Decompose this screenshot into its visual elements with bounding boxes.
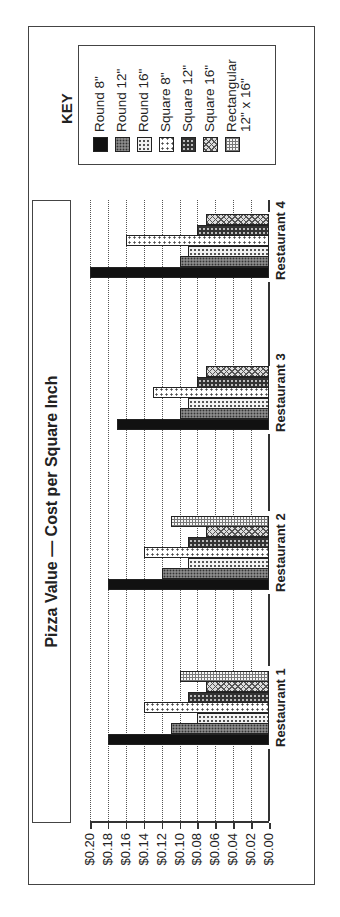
chart-title-text: Pizza Value — Cost per Square Inch <box>43 375 61 647</box>
category-label: Restaurant 2 <box>273 513 288 592</box>
legend-swatch-icon <box>225 137 240 152</box>
gridline <box>162 200 163 821</box>
legend-label: Round 8" <box>93 76 107 132</box>
baseline <box>268 749 270 821</box>
bar <box>188 558 269 569</box>
legend-label: Square 12" <box>181 65 195 132</box>
bar <box>180 257 270 268</box>
bar <box>126 236 269 247</box>
baseline <box>268 282 270 366</box>
legend-item: Round 8" <box>93 76 108 152</box>
legend-swatch-icon <box>159 137 174 152</box>
bar <box>144 703 269 714</box>
bar <box>188 692 269 703</box>
axis-tick <box>126 823 128 829</box>
gridline <box>108 200 109 821</box>
legend-swatch-icon <box>115 137 130 152</box>
bar <box>90 267 269 278</box>
axis-tick <box>108 823 110 829</box>
legend-swatch-icon <box>93 137 108 152</box>
y-tick-label: $0.06 <box>207 833 222 877</box>
axis-tick <box>197 823 199 829</box>
y-tick-label: $0.08 <box>189 833 204 877</box>
legend-swatch-icon <box>203 137 218 152</box>
rotated-chart: Pizza Value — Cost per Square Inch $0.00… <box>0 0 340 917</box>
bar <box>108 579 269 590</box>
legend-item: Square 16" <box>203 65 218 152</box>
axis-tick <box>144 823 146 829</box>
y-tick-label: $0.16 <box>118 833 133 877</box>
bar <box>180 671 270 682</box>
bar <box>180 409 270 420</box>
legend: Round 8"Round 12"Round 16"Square 8"Squar… <box>78 45 276 165</box>
legend-item: Square 8" <box>159 72 174 152</box>
bar <box>206 682 269 693</box>
axis-tick <box>269 823 271 829</box>
legend-label: Square 16" <box>203 65 217 132</box>
bar <box>206 527 269 538</box>
legend-label: Round 12" <box>115 69 129 132</box>
legend-title: KEY <box>58 93 75 124</box>
axis-tick <box>180 823 182 829</box>
gridline <box>126 200 127 821</box>
y-tick-label: $0.10 <box>172 833 187 877</box>
axis-tick <box>90 823 92 829</box>
bar <box>108 734 269 745</box>
legend-label: Round 16" <box>137 69 151 132</box>
y-tick-label: $0.18 <box>100 833 115 877</box>
bar <box>117 419 269 430</box>
category-label: Restaurant 1 <box>273 668 288 747</box>
legend-item: Round 16" <box>137 69 152 152</box>
y-tick-label: $0.14 <box>136 833 151 877</box>
legend-item: Round 12" <box>115 69 130 152</box>
axis-tick <box>251 823 253 829</box>
bar <box>153 388 269 399</box>
bar <box>188 246 269 257</box>
bar <box>197 377 269 388</box>
bar <box>171 516 269 527</box>
y-axis-line <box>90 822 269 824</box>
bar <box>162 569 269 580</box>
bar <box>197 225 269 236</box>
gridline <box>90 200 91 821</box>
category-label: Restaurant 3 <box>273 353 288 432</box>
axis-tick <box>233 823 235 829</box>
bar <box>171 724 269 735</box>
y-tick-label: $0.04 <box>225 833 240 877</box>
gridline <box>144 200 145 821</box>
legend-label: Square 8" <box>159 72 173 132</box>
bar <box>206 367 269 378</box>
baseline <box>268 200 270 212</box>
axis-tick <box>215 823 217 829</box>
legend-swatch-icon <box>181 137 196 152</box>
y-tick-label: $0.12 <box>154 833 169 877</box>
legend-label: Rectangular12" x 16" <box>225 59 253 132</box>
bar <box>144 548 269 559</box>
baseline <box>268 434 270 511</box>
y-tick-label: $0.20 <box>82 833 97 877</box>
category-label: Restaurant 4 <box>273 201 288 280</box>
legend-swatch-icon <box>137 137 152 152</box>
chart-title: Pizza Value — Cost per Square Inch <box>32 200 71 823</box>
y-tick-label: $0.02 <box>243 833 258 877</box>
baseline <box>268 594 270 666</box>
bar <box>197 713 269 724</box>
legend-item: Square 12" <box>181 65 196 152</box>
axis-tick <box>162 823 164 829</box>
y-tick-label: $0.00 <box>261 833 276 877</box>
bar <box>206 215 269 226</box>
bar <box>188 537 269 548</box>
bar <box>188 398 269 409</box>
legend-item: Rectangular12" x 16" <box>225 59 253 152</box>
